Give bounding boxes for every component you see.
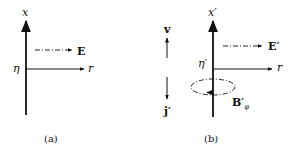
x-axis-label-b: x′ [208, 6, 217, 19]
caption-b: (b) [204, 133, 218, 144]
current-label: j′ [163, 105, 171, 118]
eta-label-a: η [13, 62, 20, 75]
e-field-label-a: E [77, 45, 85, 58]
r-axis-label-a: r [88, 62, 94, 75]
x-axis-label-a: x [22, 6, 29, 19]
diagram-canvas: x r η E (a) x′ r η′ E′ v j′ B′φ (b) [0, 0, 299, 157]
r-axis-label-b: r [277, 61, 283, 74]
diagram-svg: x r η E (a) x′ r η′ E′ v j′ B′φ (b) [0, 0, 299, 157]
panel-a: x r η E (a) [13, 6, 94, 144]
panel-b: x′ r η′ E′ v j′ B′φ (b) [163, 6, 283, 144]
eta-label-b: η′ [198, 57, 208, 70]
caption-a: (a) [44, 133, 58, 144]
e-field-label-b: E′ [268, 40, 279, 53]
velocity-label: v [163, 23, 171, 36]
magnetic-field-label: B′φ [232, 96, 249, 111]
